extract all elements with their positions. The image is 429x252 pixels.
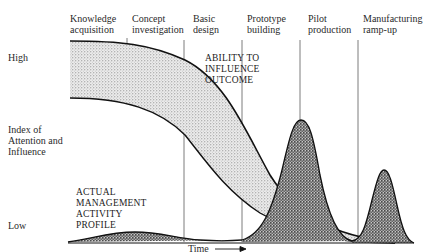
phase-label-line2: ramp-up	[363, 24, 422, 35]
y-axis-title-line2: Attention and	[8, 135, 63, 146]
y-axis-low-label: Low	[8, 220, 26, 231]
activity-label-line2: MANAGEMENT	[76, 198, 147, 209]
time-arrow-icon	[215, 247, 246, 252]
phase-label-line1: Prototype	[247, 13, 286, 24]
phase-prototype-building: Prototype building	[247, 13, 286, 35]
activity-label-line4: PROFILE	[76, 220, 147, 231]
phase-manufacturing-ramp-up: Manufacturing ramp-up	[363, 13, 422, 35]
y-axis-title: Index of Attention and Influence	[8, 124, 63, 157]
x-axis-time-label: Time	[188, 243, 209, 252]
phase-label-line2: building	[247, 24, 286, 35]
phase-label-line1: Manufacturing	[363, 13, 422, 24]
diagram-canvas	[0, 0, 429, 252]
phase-concept-investigation: Concept investigation	[132, 13, 184, 35]
phase-label-line1: Basic	[193, 13, 219, 24]
phase-label-line2: investigation	[132, 24, 184, 35]
ability-label-line1: ABILITY TO	[205, 53, 260, 64]
ability-label-line2: INFLUENCE	[205, 64, 260, 75]
phase-label-line1: Knowledge	[70, 13, 116, 24]
phase-pilot-production: Pilot production	[308, 13, 351, 35]
y-axis-title-line3: Influence	[8, 146, 63, 157]
phase-label-line1: Pilot	[308, 13, 351, 24]
phase-label-line2: production	[308, 24, 351, 35]
phase-label-line2: acquisition	[70, 24, 116, 35]
phase-label-line2: design	[193, 24, 219, 35]
y-axis-title-line1: Index of	[8, 124, 63, 135]
phase-knowledge-acquisition: Knowledge acquisition	[70, 13, 116, 35]
actual-management-activity-label: ACTUAL MANAGEMENT ACTIVITY PROFILE	[76, 187, 147, 231]
activity-label-line3: ACTIVITY	[76, 209, 147, 220]
phase-label-line1: Concept	[132, 13, 184, 24]
activity-label-line1: ACTUAL	[76, 187, 147, 198]
ability-label-line3: OUTCOME	[205, 75, 260, 86]
phase-basic-design: Basic design	[193, 13, 219, 35]
ability-to-influence-label: ABILITY TO INFLUENCE OUTCOME	[205, 53, 260, 86]
y-axis-high-label: High	[8, 52, 28, 63]
